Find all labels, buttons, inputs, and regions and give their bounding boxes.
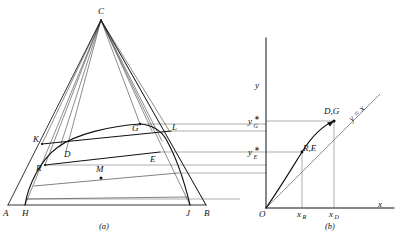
ray-C-to-J — [101, 20, 190, 205]
label-H: H — [21, 208, 29, 218]
label-point-DG: D,G — [323, 106, 340, 116]
ray-C-to-D — [60, 20, 101, 147]
tick-xR-sub: R — [302, 213, 307, 220]
panel-b-group: y x O x R x D y ∗ G y ∗ E — [247, 38, 394, 231]
equilibrium-curve — [266, 121, 334, 208]
label-point-RE: R,E — [302, 143, 317, 153]
label-diagonal-y-equals-x: y = x — [346, 103, 367, 124]
tick-xR-base: x — [296, 209, 301, 219]
tick-xD-sub: D — [334, 213, 340, 220]
tick-yE-sub: E — [253, 153, 258, 160]
label-D: D — [63, 149, 71, 159]
chord-lower — [26, 197, 187, 199]
point-marker-R — [44, 164, 46, 166]
label-G: G — [132, 123, 139, 133]
tick-label-xR: x R — [296, 209, 307, 220]
point-marker-G — [139, 123, 142, 126]
edge-A-C — [8, 20, 101, 205]
tick-xD-base: x — [328, 209, 333, 219]
tick-yG-base: y — [247, 116, 252, 126]
label-E: E — [149, 154, 156, 164]
tick-label-xD: x D — [328, 209, 340, 220]
ray-C-to-Ealt — [101, 20, 170, 132]
tick-yG-sub: G — [254, 122, 259, 129]
point-marker-DG — [332, 119, 335, 122]
label-R: R — [35, 163, 42, 173]
label-A: A — [2, 208, 9, 218]
caption-panel-a: (a) — [99, 221, 109, 231]
tick-yE-base: y — [247, 147, 252, 157]
figure-canvas: C A H J B K D L G R E M (a) — [0, 0, 402, 242]
tick-label-yG: y ∗ G — [247, 114, 260, 129]
axis-label-origin: O — [259, 209, 266, 219]
axis-label-y: y — [254, 80, 259, 90]
binodal-right-branch — [140, 124, 190, 205]
label-K: K — [32, 134, 40, 144]
point-marker-K — [41, 143, 43, 145]
label-M: M — [95, 164, 104, 174]
ray-C-to-R — [45, 20, 101, 165]
tick-label-yE: y ∗ E — [247, 145, 260, 160]
label-J: J — [186, 208, 191, 218]
label-L: L — [171, 122, 177, 132]
ray-C-to-H — [25, 20, 101, 205]
ray-C-to-L — [101, 20, 152, 131]
label-B: B — [204, 208, 210, 218]
point-marker-M — [100, 177, 103, 180]
panel-a-group: C A H J B K D L G R E M (a) — [2, 6, 266, 231]
ray-C-to-B — [101, 20, 206, 205]
ray-C-to-G — [101, 20, 140, 124]
ray-C-to-K — [42, 20, 101, 144]
figure-root: C A H J B K D L G R E M (a) — [0, 0, 402, 242]
chord-through-M — [34, 173, 178, 186]
caption-panel-b: (b) — [325, 221, 335, 231]
axis-label-x: x — [377, 199, 382, 209]
label-C: C — [98, 6, 105, 16]
